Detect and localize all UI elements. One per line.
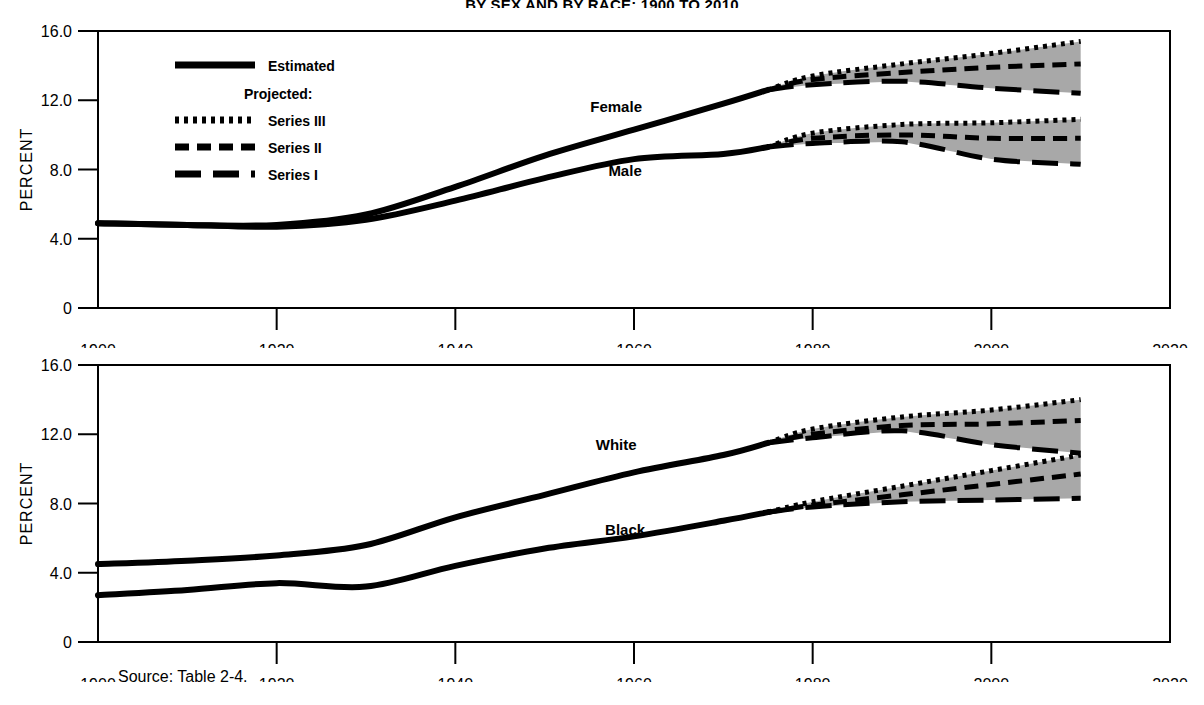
annotation-group: WhiteBlack xyxy=(596,436,646,538)
projection-band-group xyxy=(768,400,1081,513)
legend: EstimatedProjected:Series IIISeries IISe… xyxy=(175,58,335,183)
x-tick-label: 2020 xyxy=(1152,676,1188,682)
x-tick-label: 1900 xyxy=(80,676,116,682)
legend-label-series-iii: Series III xyxy=(268,113,326,129)
figure-title: BY SEX AND BY RACE: 1900 TO 2010 xyxy=(0,0,1204,8)
x-tick-label: 1920 xyxy=(259,676,295,682)
series-annotation: Female xyxy=(590,98,642,115)
panel-sex-svg: 04.08.012.016.01900192019401960198020002… xyxy=(0,18,1204,348)
legend-label-series-ii: Series II xyxy=(268,140,322,156)
y-tick-label: 12.0 xyxy=(41,92,72,109)
legend-header-projected: Projected: xyxy=(244,86,312,102)
panel-race-svg: 04.08.012.016.01900192019401960198020002… xyxy=(0,352,1204,682)
y-tick-label: 4.0 xyxy=(50,565,72,582)
x-tick-label: 1940 xyxy=(438,676,474,682)
x-tick-label: 1960 xyxy=(616,676,652,682)
y-axis-title: PERCENT xyxy=(18,128,35,211)
y-tick-label: 0 xyxy=(63,300,72,317)
x-tick-label: 2000 xyxy=(974,342,1010,348)
y-tick-label: 12.0 xyxy=(41,426,72,443)
figure-root: BY SEX AND BY RACE: 1900 TO 2010 04.08.0… xyxy=(0,0,1204,705)
chart-panel-sex: 04.08.012.016.01900192019401960198020002… xyxy=(0,18,1204,348)
y-axis-group: 04.08.012.016.0 xyxy=(41,23,98,317)
x-tick-label: 1980 xyxy=(795,342,831,348)
series-line xyxy=(98,443,768,564)
x-tick-label: 1980 xyxy=(795,676,831,682)
x-tick-label: 1920 xyxy=(259,342,295,348)
y-tick-label: 8.0 xyxy=(50,162,72,179)
series-annotation: White xyxy=(596,436,637,453)
series-group xyxy=(98,41,1081,226)
y-tick-label: 16.0 xyxy=(41,23,72,40)
legend-label-estimated: Estimated xyxy=(268,58,335,74)
y-tick-label: 16.0 xyxy=(41,357,72,374)
series-line xyxy=(98,147,768,227)
source-note: Source: Table 2-4. xyxy=(118,668,248,686)
x-tick-label: 1900 xyxy=(80,342,116,348)
x-tick-label: 1960 xyxy=(616,342,652,348)
series-annotation: Black xyxy=(605,521,646,538)
x-axis-group: 1900192019401960198020002020 xyxy=(80,308,1188,348)
legend-label-series-i: Series I xyxy=(268,167,318,183)
x-tick-label: 2020 xyxy=(1152,342,1188,348)
y-tick-label: 8.0 xyxy=(50,496,72,513)
y-axis-group: 04.08.012.016.0 xyxy=(41,357,98,651)
y-tick-label: 0 xyxy=(63,634,72,651)
y-tick-label: 4.0 xyxy=(50,231,72,248)
chart-panel-race: 04.08.012.016.01900192019401960198020002… xyxy=(0,352,1204,682)
x-tick-label: 2000 xyxy=(974,676,1010,682)
series-annotation: Male xyxy=(608,162,641,179)
x-tick-label: 1940 xyxy=(438,342,474,348)
y-axis-title: PERCENT xyxy=(18,462,35,545)
